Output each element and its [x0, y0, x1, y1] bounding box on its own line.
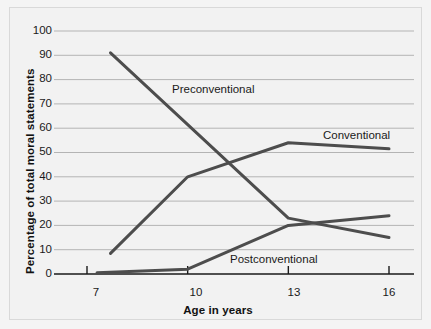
x-axis-title: Age in years [98, 304, 338, 316]
x-tick-label: 10 [176, 287, 216, 298]
x-tick-label: 16 [369, 287, 409, 298]
series-label-postconventional: Postconventional [230, 253, 318, 265]
x-tick-label: 7 [76, 287, 116, 298]
y-axis-title: Percentage of total moral statements [24, 68, 36, 274]
x-tick-label: 13 [274, 287, 314, 298]
series-label-preconventional: Preconventional [172, 83, 254, 95]
y-tick-label: 100 [18, 25, 52, 36]
y-tick-label: 90 [18, 49, 52, 60]
series-label-conventional: Conventional [323, 129, 390, 141]
chart-svg [10, 8, 421, 319]
figure-container: 100 90 80 70 60 50 40 30 20 10 0 7 10 13… [0, 0, 431, 329]
plot-area [10, 8, 421, 319]
chart-panel: 100 90 80 70 60 50 40 30 20 10 0 7 10 13… [9, 7, 422, 320]
series-line-conventional [110, 143, 389, 254]
